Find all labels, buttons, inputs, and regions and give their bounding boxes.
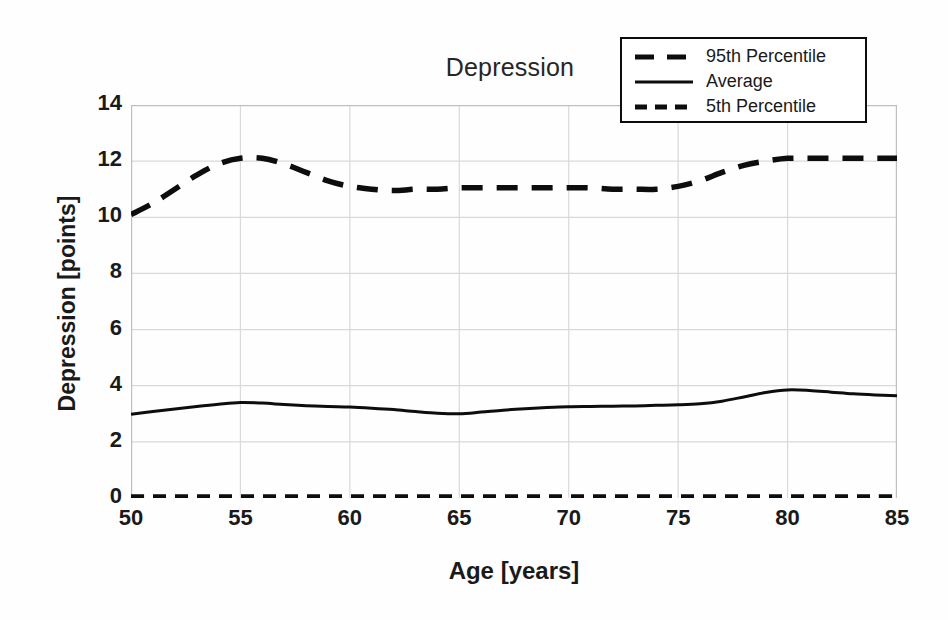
chart-figure: Depression Depression [points] Age [year… [0, 0, 948, 620]
legend-item-average[interactable]: Average [622, 69, 865, 94]
chart-title: Depression [400, 53, 620, 82]
y-tick-label: 10 [74, 202, 122, 228]
y-tick-label: 4 [74, 371, 122, 397]
legend-label: 95th Percentile [706, 46, 826, 67]
x-tick-label: 85 [867, 505, 927, 531]
x-tick-label: 50 [101, 505, 161, 531]
x-tick-label: 65 [429, 505, 489, 531]
y-axis-title: Depression [points] [54, 144, 81, 464]
legend-item-5th-percentile[interactable]: 5th Percentile [622, 94, 865, 119]
legend-line-sample-dashed-long [633, 50, 695, 64]
x-tick-label: 70 [539, 505, 599, 531]
series-line-average [131, 390, 897, 415]
y-tick-label: 8 [74, 258, 122, 284]
axis-lines [131, 105, 897, 498]
x-tick-label: 75 [648, 505, 708, 531]
x-tick-label: 80 [758, 505, 818, 531]
y-tick-label: 6 [74, 315, 122, 341]
legend-label: Average [706, 71, 773, 92]
legend-item-95th-percentile[interactable]: 95th Percentile [622, 44, 865, 69]
plot-svg [131, 105, 897, 498]
gridlines [131, 105, 897, 498]
data-series-layer [131, 158, 897, 497]
y-tick-label: 14 [74, 90, 122, 116]
x-tick-label: 60 [320, 505, 380, 531]
legend-line-sample-solid [633, 75, 695, 89]
series-line-95th-percentile [131, 158, 897, 215]
legend-label: 5th Percentile [706, 96, 816, 117]
x-axis-title: Age [years] [131, 557, 897, 585]
x-tick-label: 55 [210, 505, 270, 531]
legend-line-sample-dashed-short [633, 100, 695, 114]
y-tick-label: 12 [74, 146, 122, 172]
chart-legend[interactable]: 95th Percentile Average 5th Percentile [620, 37, 867, 123]
plot-area [131, 105, 897, 498]
y-tick-label: 2 [74, 427, 122, 453]
